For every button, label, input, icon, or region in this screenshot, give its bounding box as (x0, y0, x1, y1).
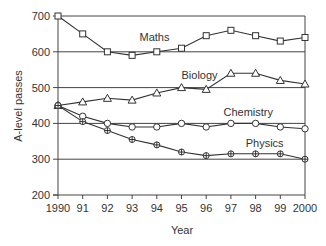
circle-marker (154, 124, 160, 130)
series-label-maths: Maths (140, 31, 170, 43)
square-marker (302, 34, 308, 40)
square-marker (104, 49, 110, 55)
y-tick-label: 200 (32, 189, 50, 201)
circle-marker (228, 120, 234, 126)
square-marker (154, 49, 160, 55)
square-marker (80, 31, 86, 37)
x-tick-label: 94 (151, 202, 163, 214)
square-marker (277, 38, 283, 44)
x-tick-label: 95 (175, 202, 187, 214)
circle-marker (129, 124, 135, 130)
x-tick-label: 1990 (46, 202, 70, 214)
y-tick-label: 700 (32, 10, 50, 22)
y-axis-title: A-level passes (12, 70, 24, 142)
circle-marker (252, 120, 258, 126)
y-tick-label: 300 (32, 153, 50, 165)
x-tick-label: 99 (274, 202, 286, 214)
x-tick-label: 97 (225, 202, 237, 214)
series-label-biology: Biology (182, 69, 219, 81)
y-tick-label: 500 (32, 82, 50, 94)
x-tick-label: 98 (249, 202, 261, 214)
series-labels: MathsBiologyChemistryPhysics (140, 31, 285, 149)
x-tick-label: 93 (126, 202, 138, 214)
circle-marker (203, 124, 209, 130)
triangle-marker (103, 94, 111, 101)
circle-marker (277, 124, 283, 130)
y-tick-label: 600 (32, 46, 50, 58)
square-marker (228, 27, 234, 33)
x-tick-label: 92 (101, 202, 113, 214)
x-tick-label: 96 (200, 202, 212, 214)
y-tick-label: 400 (32, 117, 50, 129)
square-marker (203, 33, 209, 39)
series-label-chemistry: Chemistry (223, 106, 273, 118)
x-axis-title: Year (171, 224, 194, 236)
x-tick-label: 91 (77, 202, 89, 214)
circle-marker (104, 120, 110, 126)
axes: 2003004005006007001990919293949596979899… (32, 10, 318, 214)
square-marker (129, 52, 135, 58)
line-chart: 2003004005006007001990919293949596979899… (0, 0, 326, 246)
square-marker (179, 45, 185, 51)
circle-marker (178, 120, 184, 126)
square-marker (253, 33, 259, 39)
square-marker (55, 13, 61, 19)
circle-marker (302, 126, 308, 132)
series-label-physics: Physics (246, 137, 284, 149)
x-tick-label: 2000 (293, 202, 317, 214)
